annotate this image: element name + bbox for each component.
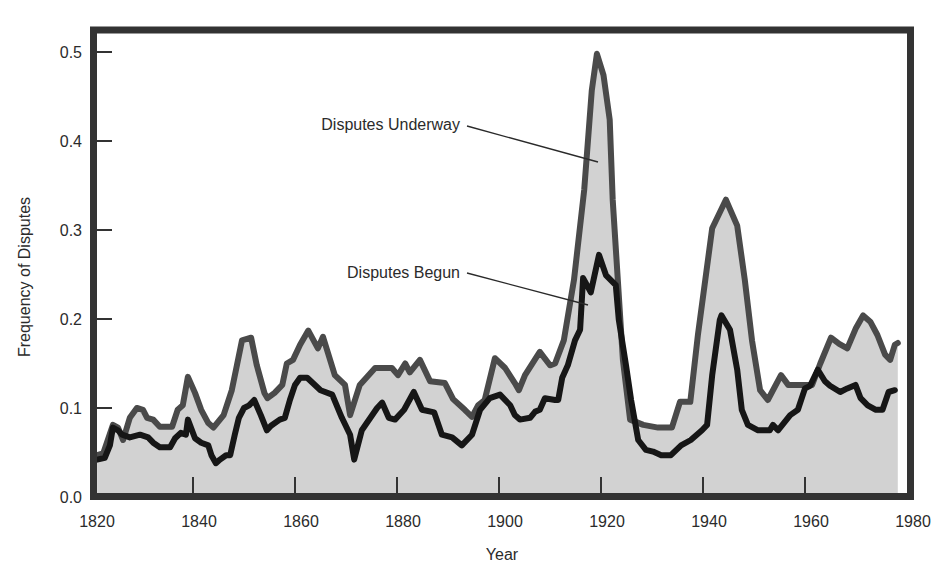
- plot-area: [97, 54, 898, 493]
- x-tick-label: 1980: [895, 513, 931, 530]
- chart: 0.00.10.20.30.40.5 182018401860188019001…: [0, 0, 947, 580]
- y-tick-label: 0.5: [60, 44, 82, 61]
- y-tick-label: 0.0: [60, 489, 82, 506]
- x-tick-label: 1840: [181, 513, 217, 530]
- x-tick-label: 1900: [487, 513, 523, 530]
- y-tick-label: 0.3: [60, 222, 82, 239]
- x-tick-label: 1880: [385, 513, 421, 530]
- annotation-underway-label: Disputes Underway: [321, 116, 460, 133]
- annotation-begun-label: Disputes Begun: [347, 264, 460, 281]
- x-tick-label: 1860: [283, 513, 319, 530]
- y-axis-title: Frequency of Disputes: [16, 197, 33, 357]
- y-tick-label: 0.1: [60, 400, 82, 417]
- x-tick-label: 1820: [79, 513, 115, 530]
- x-tick-label: 1960: [793, 513, 829, 530]
- y-tick-label: 0.4: [60, 133, 82, 150]
- y-axis-tick-labels: 0.00.10.20.30.40.5: [60, 44, 82, 506]
- y-tick-label: 0.2: [60, 311, 82, 328]
- annotation-underway: Disputes Underway: [321, 116, 598, 162]
- annotation-begun: Disputes Begun: [347, 264, 588, 305]
- annotation-underway-leader-line: [467, 126, 598, 162]
- x-axis-tick-labels: 182018401860188019001920194019601980: [79, 513, 931, 530]
- x-axis-title: Year: [486, 546, 519, 563]
- x-tick-label: 1920: [589, 513, 625, 530]
- x-tick-label: 1940: [691, 513, 727, 530]
